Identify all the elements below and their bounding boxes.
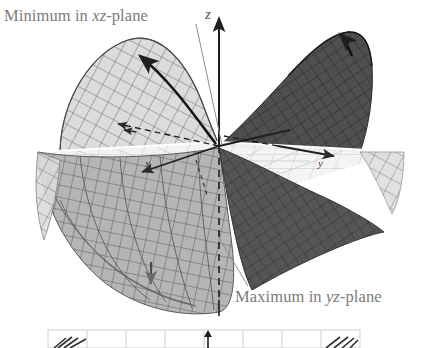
x-axis-label: x xyxy=(145,157,150,169)
next-figure-strip: y xyxy=(0,326,428,348)
label-minimum-suffix: -plane xyxy=(106,6,148,25)
label-minimum-plane: xz xyxy=(92,6,106,25)
label-maximum-prefix: Maximum in xyxy=(235,287,326,306)
z-axis-label: z xyxy=(205,6,211,23)
label-maximum-suffix: -plane xyxy=(340,287,382,306)
label-maximum-plane: yz xyxy=(326,287,340,306)
saddle-figure: Minimum in xz-plane Maximum in yz-plane … xyxy=(0,0,428,348)
surface-front-lobe xyxy=(38,148,234,314)
label-minimum-prefix: Minimum in xyxy=(4,6,92,25)
label-minimum-xz-plane: Minimum in xz-plane xyxy=(4,7,148,24)
label-maximum-yz-plane: Maximum in yz-plane xyxy=(235,288,382,305)
y-axis-label: y xyxy=(318,157,323,169)
surface-right-tail xyxy=(360,152,404,214)
next-figure-graphic xyxy=(0,326,428,348)
